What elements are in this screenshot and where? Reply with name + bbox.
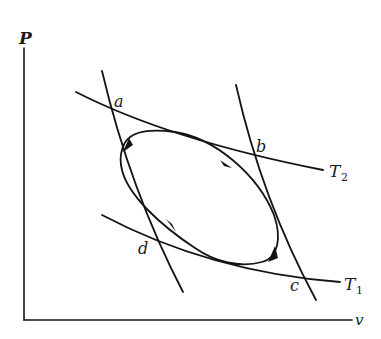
point-c-label: c [290,276,299,295]
arrow-icon-upper-right [220,160,232,168]
t1-subscript: 1 [356,284,363,297]
point-b-label: b [256,137,266,156]
point-a-label: a [114,92,124,111]
pv-diagram: P v a b c d T 2 T 1 [0,0,381,339]
point-d-label: d [138,239,148,258]
t2-subscript: 2 [341,171,348,184]
p-axis-label: P [18,28,33,48]
v-axis-label: v [355,311,364,329]
diagram-canvas: P v a b c d T 2 T 1 [0,0,381,339]
